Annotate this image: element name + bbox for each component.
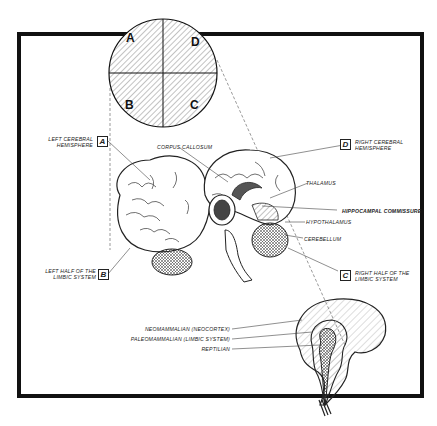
label-left-cerebral-hemisphere: Left cerebral hemisphere	[40, 136, 93, 148]
label-neomammalian: Neomammalian (neocortex)	[120, 326, 230, 332]
label-hippocampal-commissure: Hippocampal commissure	[342, 208, 421, 214]
label-paleomammalian: Paleomammalian (limbic system)	[100, 336, 230, 342]
label-left-limbic-system: Left half of the limbic system	[28, 268, 96, 280]
label-reptilian: Reptilian	[150, 346, 230, 352]
box-a: A	[97, 136, 108, 147]
box-c: C	[340, 270, 351, 281]
left-brain-illustration	[117, 156, 211, 275]
brain-diagram: A D B C Left cerebral hemisphere A D Rig…	[0, 0, 437, 426]
box-d: D	[340, 139, 351, 150]
quadrant-letter-a: A	[126, 31, 135, 45]
quadrant-letter-c: C	[190, 98, 199, 112]
box-b: B	[98, 269, 109, 280]
quadrant-letter-b: B	[125, 98, 134, 112]
label-right-cerebral-hemisphere: Right cerebral hemisphere	[355, 139, 403, 151]
label-corpus-callosum: Corpus callosum	[157, 144, 212, 150]
quadrant-letter-d: D	[191, 35, 200, 49]
label-thalamus: Thalamus	[306, 180, 336, 186]
triune-brain-illustration	[296, 299, 385, 416]
label-hypothalamus: Hypothalamus	[306, 219, 351, 225]
right-brain-illustration	[204, 150, 295, 282]
label-right-limbic-system: Right half of the limbic system	[355, 270, 410, 282]
label-cerebellum: Cerebellum	[304, 236, 341, 242]
